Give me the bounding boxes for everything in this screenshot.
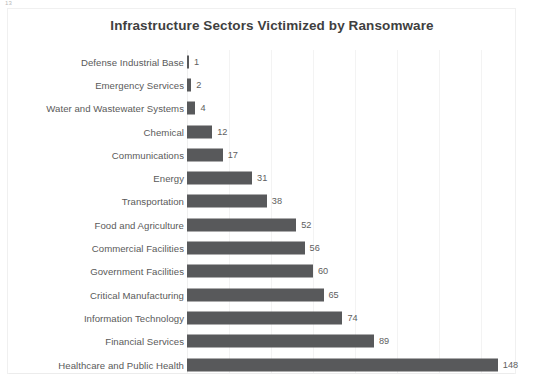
- category-label: Information Technology: [84, 312, 184, 323]
- value-label: 31: [257, 173, 267, 183]
- bar[interactable]: [187, 125, 212, 138]
- value-label: 1: [194, 57, 199, 67]
- chart-bar-row: Communications17: [0, 143, 544, 166]
- bar[interactable]: [187, 102, 195, 115]
- category-label: Financial Services: [105, 336, 184, 347]
- chart-bar-row: Defense Industrial Base1: [0, 50, 544, 73]
- value-label: 148: [503, 360, 518, 370]
- value-label: 89: [379, 336, 389, 346]
- chart-title: Infrastructure Sectors Victimized by Ran…: [0, 18, 544, 33]
- bar[interactable]: [187, 195, 267, 208]
- category-label: Transportation: [122, 196, 184, 207]
- chart-bar-row: Energy31: [0, 166, 544, 189]
- bar[interactable]: [187, 358, 498, 371]
- chart-bar-row: Transportation38: [0, 190, 544, 213]
- chart-bar-row: Food and Agriculture52: [0, 213, 544, 236]
- value-label: 4: [200, 103, 205, 113]
- value-label: 56: [310, 243, 320, 253]
- value-label: 52: [301, 220, 311, 230]
- category-label: Commercial Facilities: [92, 243, 184, 254]
- chart-plot-area: Defense Industrial Base1Emergency Servic…: [0, 50, 544, 376]
- bar[interactable]: [187, 218, 296, 231]
- value-label: 2: [196, 80, 201, 90]
- category-label: Healthcare and Public Health: [58, 359, 184, 370]
- chart-bar-row: Critical Manufacturing65: [0, 283, 544, 306]
- value-label: 12: [217, 127, 227, 137]
- category-label: Defense Industrial Base: [81, 56, 184, 67]
- page-number-artifact: 13: [5, 0, 12, 7]
- category-label: Energy: [153, 173, 184, 184]
- category-label: Emergency Services: [95, 79, 184, 90]
- chart-baseline: [9, 373, 514, 374]
- category-label: Communications: [112, 149, 184, 160]
- bar[interactable]: [187, 55, 189, 68]
- bar[interactable]: [187, 172, 252, 185]
- chart-bar-row: Emergency Services2: [0, 73, 544, 96]
- chart-bar-row: Chemical12: [0, 120, 544, 143]
- chart-bar-row: Information Technology74: [0, 306, 544, 329]
- value-label: 74: [347, 313, 357, 323]
- chart-bar-row: Financial Services89: [0, 330, 544, 353]
- bar[interactable]: [187, 265, 313, 278]
- bar[interactable]: [187, 311, 342, 324]
- category-label: Food and Agriculture: [94, 219, 184, 230]
- bar[interactable]: [187, 288, 324, 301]
- value-label: 17: [228, 150, 238, 160]
- category-label: Chemical: [144, 126, 184, 137]
- bar[interactable]: [187, 335, 374, 348]
- chart-bar-row: Commercial Facilities56: [0, 236, 544, 259]
- bar[interactable]: [187, 78, 191, 91]
- chart-bar-row: Government Facilities60: [0, 260, 544, 283]
- bar[interactable]: [187, 242, 305, 255]
- value-label: 65: [329, 290, 339, 300]
- category-label: Government Facilities: [90, 266, 184, 277]
- bar[interactable]: [187, 148, 223, 161]
- value-label: 60: [318, 266, 328, 276]
- category-label: Water and Wastewater Systems: [46, 103, 184, 114]
- chart-bar-rows: Defense Industrial Base1Emergency Servic…: [0, 50, 544, 376]
- value-label: 38: [272, 196, 282, 206]
- chart-bar-row: Water and Wastewater Systems4: [0, 97, 544, 120]
- category-label: Critical Manufacturing: [90, 289, 184, 300]
